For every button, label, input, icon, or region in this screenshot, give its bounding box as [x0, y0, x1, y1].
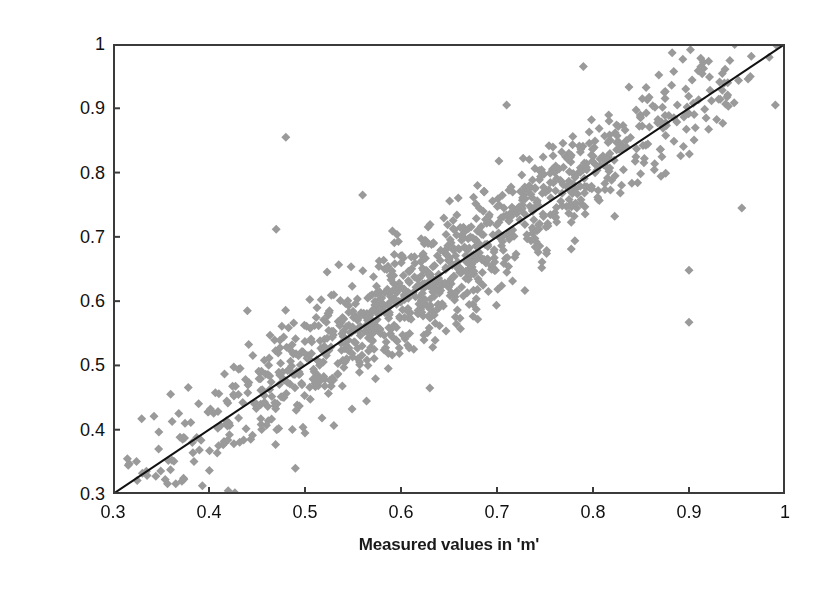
- x-axis-tick-label: 0.5: [275, 503, 335, 521]
- x-axis-tick-label: 0.9: [659, 503, 719, 521]
- x-axis-tick-label: 0.8: [563, 503, 623, 521]
- y-axis-tick-label: 0.8: [43, 164, 105, 182]
- x-axis-tick-label: 0.6: [371, 503, 431, 521]
- x-axis-tick-label: 0.4: [179, 503, 239, 521]
- y-axis-tick-label: 0.9: [43, 99, 105, 117]
- x-axis-title: Measured values in 'm': [113, 535, 785, 555]
- y-axis-tick-label: 0.5: [43, 356, 105, 374]
- x-axis-tick-label: 0.7: [467, 503, 527, 521]
- scatter-points-canvas: [113, 44, 785, 494]
- plot-area: [113, 44, 785, 494]
- y-axis-tick-label: 0.7: [43, 228, 105, 246]
- y-axis-tick-labels: 0.30.40.50.60.70.80.91: [37, 44, 105, 494]
- scatter-chart-figure: Predicted values in 'm' 0.30.40.50.60.70…: [0, 0, 823, 589]
- x-axis-tick-label: 0.3: [83, 503, 143, 521]
- y-axis-tick-label: 0.3: [43, 485, 105, 503]
- x-axis-tick-labels: 0.30.40.50.60.70.80.91: [113, 503, 785, 529]
- y-axis-tick-label: 1: [43, 35, 105, 53]
- y-axis-tick-label: 0.6: [43, 292, 105, 310]
- x-axis-title-text: Measured values in 'm': [359, 535, 539, 554]
- x-axis-tick-label: 1: [755, 503, 815, 521]
- y-axis-tick-label: 0.4: [43, 421, 105, 439]
